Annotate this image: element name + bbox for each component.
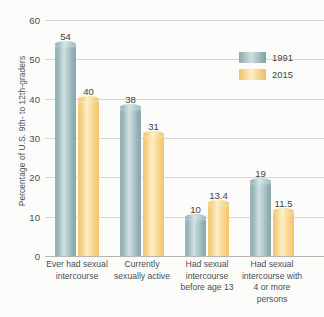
bar-value-label: 19 (241, 168, 281, 179)
bar-2015-4[interactable] (273, 211, 294, 256)
bar-group: 5440 (55, 20, 99, 256)
bar-1991-3[interactable] (185, 217, 206, 256)
y-axis-tick-label: 30 (29, 133, 40, 144)
bar-value-label: 13.4 (199, 190, 239, 201)
bar-value-label: 38 (111, 94, 151, 105)
y-axis-title: Percentage of U.S. 9th- to 12th-graders (17, 23, 27, 239)
y-axis-tick-label: 0 (35, 251, 40, 262)
bar-2015-1[interactable] (78, 99, 99, 256)
bar-group: 1013.4 (185, 20, 229, 256)
y-axis-tick-label: 20 (29, 172, 40, 183)
legend-label-2015: 2015 (272, 69, 293, 80)
legend-item-1991[interactable]: 1991 (239, 50, 319, 64)
bar-value-label: 11.5 (264, 198, 304, 209)
x-axis-label-2: Currently sexually active (109, 259, 175, 282)
bar-value-label: 54 (46, 31, 86, 42)
x-axis-category-labels: Ever had sexual intercourseCurrently sex… (45, 259, 324, 317)
bar-1991-4[interactable] (250, 181, 271, 256)
y-axis-tick-label: 40 (29, 93, 40, 104)
y-axis-tick-label: 60 (29, 15, 40, 26)
gridline (45, 256, 324, 257)
x-axis-label-4: Had sexual intercourse with 4 or more pe… (239, 259, 305, 305)
bar-group: 3831 (120, 20, 164, 256)
legend-swatch-1991 (239, 52, 266, 63)
bar-2015-2[interactable] (143, 134, 164, 256)
bar-chart: Percentage of U.S. 9th- to 12th-graders … (0, 0, 324, 317)
x-axis-label-3: Had sexual intercourse before age 13 (174, 259, 240, 294)
bar-1991-1[interactable] (55, 44, 76, 256)
legend-swatch-2015 (239, 69, 266, 80)
y-axis-tick-label: 10 (29, 211, 40, 222)
x-axis-label-1: Ever had sexual intercourse (44, 259, 110, 282)
y-axis-tick-label: 50 (29, 54, 40, 65)
legend-item-2015[interactable]: 2015 (239, 67, 319, 81)
legend-label-1991: 1991 (272, 52, 293, 63)
bar-2015-3[interactable] (208, 203, 229, 256)
chart-legend: 19912015 (239, 50, 319, 84)
bar-value-label: 31 (134, 121, 174, 132)
bar-value-label: 40 (69, 86, 109, 97)
